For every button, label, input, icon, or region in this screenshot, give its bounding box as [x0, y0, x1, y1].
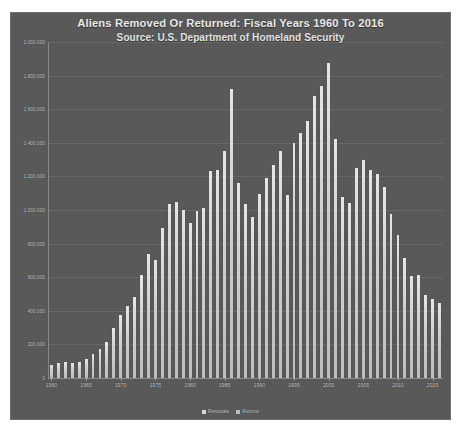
x-axis-label: 1960 [46, 382, 58, 388]
bar [50, 365, 53, 378]
x-axis-label: 1975 [150, 382, 162, 388]
bar [154, 260, 157, 378]
bar [320, 86, 323, 378]
plot-area: 2,000,0001,800,0001,600,0001,400,0001,20… [48, 42, 443, 378]
bar [85, 359, 88, 378]
bar [397, 235, 400, 378]
y-axis-label: 1,800,000 [24, 73, 45, 78]
x-axis-label: 2005 [358, 382, 370, 388]
x-axis-tick [51, 378, 52, 381]
legend-swatch-icon [202, 410, 206, 414]
bar [64, 362, 67, 378]
x-axis-tick [329, 378, 330, 381]
chart-container: Aliens Removed Or Returned: Fiscal Years… [10, 12, 451, 420]
x-axis-label: 1980 [184, 382, 196, 388]
x-axis-label: 1970 [115, 382, 127, 388]
x-axis-tick [121, 378, 122, 381]
x-axis-tick [190, 378, 191, 381]
x-axis-tick [294, 378, 295, 381]
bar [265, 178, 268, 378]
bar [390, 214, 393, 378]
bar [244, 204, 247, 378]
bar [362, 160, 365, 378]
x-axis-tick [225, 378, 226, 381]
bar [279, 151, 282, 378]
chart-legend: RemovalsReturns [10, 409, 451, 414]
bar [209, 171, 212, 378]
bar [99, 349, 102, 378]
y-axis-label: 0 [42, 376, 45, 381]
x-axis-label: 1990 [254, 382, 266, 388]
legend-swatch-icon [236, 410, 240, 414]
legend-item[interactable]: Removals [202, 409, 229, 414]
x-axis-tick [433, 378, 434, 381]
bar [410, 276, 413, 378]
bar [140, 275, 143, 378]
x-axis-tick [398, 378, 399, 381]
bar [424, 295, 427, 378]
y-axis-label: 2,000,000 [24, 40, 45, 45]
bar [223, 151, 226, 378]
bar [92, 354, 95, 378]
bar [237, 183, 240, 378]
bar [341, 197, 344, 378]
bar [133, 297, 136, 378]
bar [293, 143, 296, 378]
bar [383, 187, 386, 378]
y-axis-label: 1,000,000 [24, 208, 45, 213]
bar [189, 223, 192, 378]
y-axis-label: 1,400,000 [24, 140, 45, 145]
x-axis-label: 1995 [288, 382, 300, 388]
bar [286, 195, 289, 378]
bar-series [48, 42, 443, 378]
bar [355, 168, 358, 378]
bar [147, 254, 150, 378]
bar [403, 258, 406, 378]
legend-label: Returns [242, 409, 259, 414]
bar [327, 63, 330, 378]
bar [78, 362, 81, 378]
chart-title: Aliens Removed Or Returned: Fiscal Years… [10, 16, 451, 30]
y-axis-label: 400,000 [28, 308, 45, 313]
x-axis-tick [155, 378, 156, 381]
bar [334, 139, 337, 378]
bar [168, 204, 171, 378]
bar [251, 217, 254, 378]
bar [417, 275, 420, 378]
bar [348, 203, 351, 378]
bar [182, 210, 185, 378]
bar [230, 89, 233, 378]
bar [119, 315, 122, 378]
y-axis-label: 1,600,000 [24, 107, 45, 112]
bar [105, 342, 108, 378]
x-axis-tick [363, 378, 364, 381]
bar [71, 363, 74, 378]
bar [126, 306, 129, 378]
x-axis-label: 1965 [80, 382, 92, 388]
x-axis-label: 2015 [427, 382, 439, 388]
gridline [48, 378, 443, 379]
y-axis-label: 200,000 [28, 342, 45, 347]
bar [57, 363, 60, 378]
x-axis-label: 2000 [323, 382, 335, 388]
bar [258, 194, 261, 378]
chart-header: Aliens Removed Or Returned: Fiscal Years… [10, 16, 451, 45]
bar [313, 96, 316, 378]
y-axis-label: 1,200,000 [24, 174, 45, 179]
bar [431, 299, 434, 378]
bar [112, 328, 115, 378]
bar [175, 202, 178, 378]
bar [202, 208, 205, 378]
legend-item[interactable]: Returns [236, 409, 259, 414]
bar [272, 165, 275, 378]
bar [376, 174, 379, 378]
bar [306, 121, 309, 378]
bar [299, 133, 302, 378]
x-axis-tick [259, 378, 260, 381]
legend-label: Removals [208, 409, 229, 414]
x-axis-label: 2010 [392, 382, 404, 388]
x-axis-tick [86, 378, 87, 381]
bar [196, 211, 199, 378]
bar [438, 303, 441, 378]
y-axis-label: 600,000 [28, 275, 45, 280]
